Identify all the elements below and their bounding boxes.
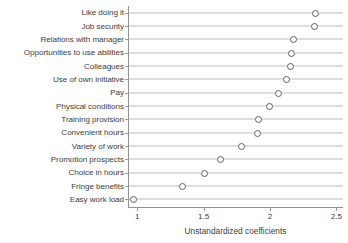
- x-axis-tick-label: 2: [268, 212, 273, 222]
- x-axis-tick: [204, 207, 205, 211]
- data-point-marker[interactable]: [275, 90, 282, 97]
- row-connector-line: [128, 145, 343, 146]
- dot-plot-row: [128, 19, 343, 32]
- category-label: Convenient hours: [2, 128, 124, 137]
- row-connector-line: [128, 132, 343, 133]
- row-connector-line: [128, 159, 343, 160]
- dot-plot-row: [128, 33, 343, 46]
- x-axis-tick-label: 1: [135, 212, 140, 222]
- category-label: Easy work load: [2, 195, 124, 204]
- row-connector-line: [128, 172, 343, 173]
- dot-plot-row: [128, 126, 343, 139]
- dot-plot-row: [128, 193, 343, 206]
- row-connector-line: [128, 65, 343, 66]
- category-label: Opportunities to use abilities: [2, 48, 124, 57]
- data-point-marker[interactable]: [266, 103, 273, 110]
- category-label: Job security: [2, 22, 124, 31]
- x-axis-tick: [336, 207, 337, 211]
- category-label: Fringe benefits: [2, 182, 124, 191]
- dot-plot-row: [128, 46, 343, 59]
- row-connector-line: [128, 12, 343, 13]
- dot-plot-row: [128, 99, 343, 112]
- dot-plot-row: [128, 153, 343, 166]
- data-point-marker[interactable]: [290, 36, 297, 43]
- row-connector-line: [128, 39, 343, 40]
- dot-plot-row: [128, 6, 343, 19]
- row-connector-line: [128, 105, 343, 106]
- dot-plot-row: [128, 113, 343, 126]
- row-connector-line: [128, 185, 343, 186]
- category-label: Training provision: [2, 115, 124, 124]
- data-point-marker[interactable]: [311, 23, 318, 30]
- row-connector-line: [128, 52, 343, 53]
- dot-plot-chart: Unstandardized coefficients Like doing i…: [0, 0, 348, 243]
- dot-plot-row: [128, 166, 343, 179]
- x-axis-tick-label: 1.5: [198, 212, 209, 222]
- x-axis-tick: [270, 207, 271, 211]
- x-axis-tick-label: 2.5: [331, 212, 342, 222]
- x-axis-tick: [137, 207, 138, 211]
- data-point-marker[interactable]: [312, 10, 319, 17]
- data-point-marker[interactable]: [287, 63, 294, 70]
- data-point-marker[interactable]: [201, 170, 208, 177]
- data-point-marker[interactable]: [255, 116, 262, 123]
- data-point-marker[interactable]: [130, 196, 137, 203]
- dot-plot-row: [128, 179, 343, 192]
- dot-plot-row: [128, 73, 343, 86]
- category-label: Relations with manager: [2, 35, 124, 44]
- data-point-marker[interactable]: [288, 50, 295, 57]
- y-axis-line: [128, 6, 129, 207]
- row-connector-line: [128, 79, 343, 80]
- dot-plot-row: [128, 59, 343, 72]
- category-label: Promotion prospects: [2, 155, 124, 164]
- category-label: Choice in hours: [2, 168, 124, 177]
- category-label: Use of own initiative: [2, 75, 124, 84]
- category-label: Pay: [2, 88, 124, 97]
- data-point-marker[interactable]: [238, 143, 245, 150]
- category-label: Variety of work: [2, 142, 124, 151]
- category-label: Like doing it: [2, 8, 124, 17]
- row-connector-line: [128, 92, 343, 93]
- data-point-marker[interactable]: [254, 130, 261, 137]
- x-axis-line: [128, 207, 343, 208]
- category-label: Physical conditions: [2, 102, 124, 111]
- data-point-marker[interactable]: [217, 156, 224, 163]
- category-label: Colleagues: [2, 62, 124, 71]
- data-point-marker[interactable]: [283, 76, 290, 83]
- dot-plot-row: [128, 139, 343, 152]
- dot-plot-row: [128, 86, 343, 99]
- x-axis-title: Unstandardized coefficients: [128, 226, 343, 236]
- data-point-marker[interactable]: [179, 183, 186, 190]
- row-connector-line: [128, 119, 343, 120]
- row-connector-line: [128, 199, 343, 200]
- plot-area: [128, 6, 343, 206]
